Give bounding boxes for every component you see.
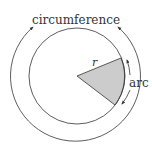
circumference-label: circumference (32, 13, 120, 27)
arc-label: arc (129, 76, 149, 90)
circle-diagram: circumference r arc (0, 0, 152, 145)
sector (77, 58, 125, 105)
arc-arrow-upper (127, 60, 130, 75)
radius-label: r (92, 56, 98, 69)
arc-arrow-lower (122, 90, 130, 104)
